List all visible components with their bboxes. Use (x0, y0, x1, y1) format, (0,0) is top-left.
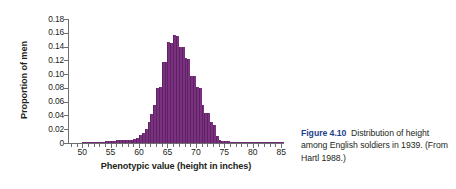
y-tick-mark (64, 19, 68, 20)
y-tick-label: 0.06 (28, 97, 64, 106)
x-axis-tick-labels: 5055606570758085 (68, 147, 288, 159)
x-tick-label: 60 (127, 147, 151, 158)
x-tick-label: 50 (70, 147, 94, 158)
figure-caption: Figure 4.10 Distribution of height among… (301, 127, 451, 164)
y-tick-label: 0.08 (28, 83, 64, 92)
x-tick-label: 55 (99, 147, 123, 158)
y-tick-label: 0.18 (28, 15, 64, 24)
plot-area (68, 19, 284, 144)
y-tick-mark (64, 102, 68, 103)
y-tick-mark (64, 129, 68, 130)
y-tick-mark (64, 74, 68, 75)
y-tick-mark (64, 60, 68, 61)
x-tick-label: 85 (269, 147, 293, 158)
histogram-bars (68, 19, 284, 143)
y-tick-label: 0.16 (28, 28, 64, 37)
x-axis-title: Phenotypic value (height in inches) (50, 161, 302, 171)
y-tick-mark (64, 115, 68, 116)
y-tick-mark (64, 33, 68, 34)
x-tick-label: 65 (155, 147, 179, 158)
figure-number: Figure 4.10 (301, 128, 346, 138)
x-tick-label: 70 (184, 147, 208, 158)
x-tick-label: 80 (241, 147, 265, 158)
y-tick-label: 0.02 (28, 125, 64, 134)
x-axis-line (68, 143, 284, 144)
y-axis-tick-labels: 0.180.160.140.120.100.080.060.040.020 (28, 14, 64, 148)
y-tick-label: 0.14 (28, 42, 64, 51)
y-tick-label: 0.12 (28, 56, 64, 65)
y-tick-label: 0.10 (28, 70, 64, 79)
figure-histogram: Proportion of men 0.180.160.140.120.100.… (0, 0, 456, 189)
y-tick-label: 0.04 (28, 111, 64, 120)
histogram-bar (281, 142, 284, 143)
y-tick-mark (64, 88, 68, 89)
y-tick-label: 0 (28, 139, 64, 148)
x-tick-label: 75 (212, 147, 236, 158)
y-tick-mark (64, 143, 68, 144)
y-tick-mark (64, 47, 68, 48)
